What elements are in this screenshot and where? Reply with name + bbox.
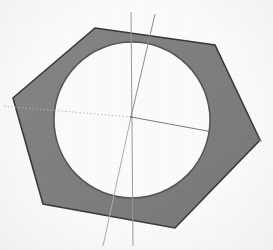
center-point-marker — [130, 116, 132, 118]
hexagonal-ring-figure — [0, 0, 273, 250]
diagram-canvas — [0, 0, 273, 250]
